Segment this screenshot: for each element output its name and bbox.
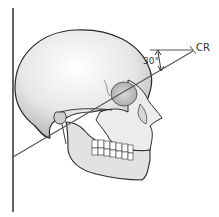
diagram-canvas bbox=[0, 0, 219, 217]
skull-illustration bbox=[15, 30, 162, 180]
ear-canal bbox=[54, 112, 66, 124]
central-ray-label: CR bbox=[196, 42, 210, 53]
angle-label: 30° bbox=[143, 56, 159, 66]
orbit bbox=[111, 82, 137, 106]
